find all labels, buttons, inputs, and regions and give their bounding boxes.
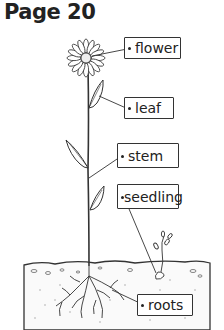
label-leaf: leaf bbox=[124, 97, 174, 119]
label-stem: stem bbox=[117, 143, 179, 168]
stem-drawing bbox=[88, 66, 89, 266]
label-text: seedling bbox=[124, 189, 183, 205]
label-text: stem bbox=[128, 148, 163, 164]
plant-illustration bbox=[0, 0, 224, 330]
pointer-dot bbox=[121, 155, 124, 158]
pointer-dot bbox=[128, 107, 131, 110]
label-text: leaf bbox=[135, 100, 161, 116]
pointer-dot bbox=[121, 196, 124, 199]
label-roots: roots bbox=[137, 294, 193, 316]
label-flower: flower bbox=[124, 37, 181, 59]
pointer-dot bbox=[141, 304, 144, 307]
flower-drawing bbox=[67, 39, 105, 77]
label-text: flower bbox=[135, 40, 178, 56]
label-seedling: seedling bbox=[117, 184, 179, 209]
label-text: roots bbox=[148, 297, 183, 313]
leaves-drawing bbox=[66, 80, 104, 210]
pointer-dot bbox=[128, 47, 131, 50]
